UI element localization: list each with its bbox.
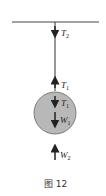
t1-rope-label: T1 [61,80,69,91]
w2-label: W2 [60,150,71,161]
figure-caption: 图 12 [44,179,67,189]
free-body-diagram: T2 T1 T1 W1 W2 图 12 [0,0,106,196]
t2-label: T2 [61,28,69,39]
